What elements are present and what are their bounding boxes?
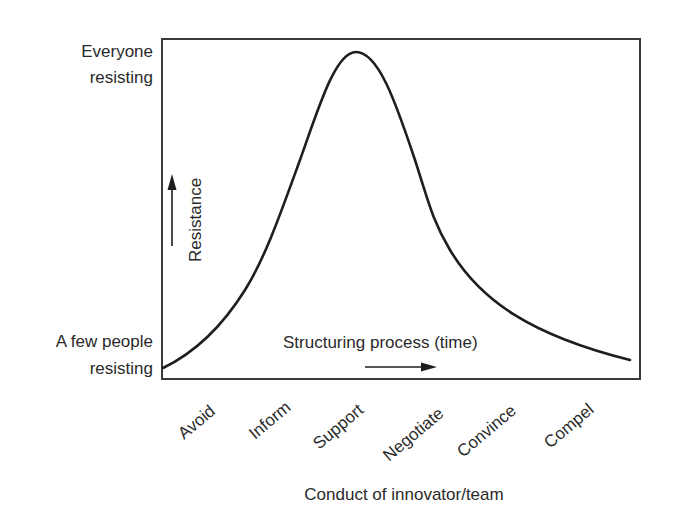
resistance-curve [163,52,630,368]
y-top-label-line1: Everyone [81,42,153,61]
category-label-support: Support [309,400,367,453]
category-label-negotiate: Negotiate [379,404,447,465]
plot-frame [162,39,640,379]
y-bottom-label-line2: resisting [90,359,153,378]
category-label-compel: Compel [540,400,597,452]
resistance-arrow-icon [168,174,177,246]
x-axis-title: Conduct of innovator/team [304,485,503,504]
structuring-process-label: Structuring process (time) [283,333,478,352]
time-arrow-icon [365,363,437,372]
y-top-label-line2: resisting [90,68,153,87]
resistance-axis-label: Resistance [186,178,205,262]
y-bottom-label-line1: A few people [56,332,153,351]
category-label-convince: Convince [453,401,520,461]
category-label-inform: Inform [245,398,294,444]
resistance-diagram: Everyone resisting A few people resistin… [0,0,677,507]
category-label-avoid: Avoid [174,401,219,443]
